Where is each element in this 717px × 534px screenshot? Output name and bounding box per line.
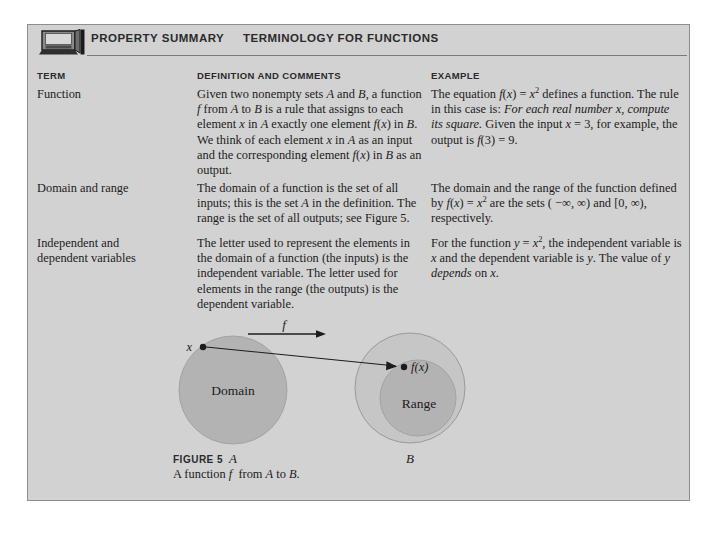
cell-term: Independent anddependent variables — [37, 236, 192, 266]
computer-monitor-icon — [37, 29, 85, 57]
domain-point-dot — [200, 344, 206, 350]
figure-5: f x f(x) Domain Range A B — [28, 320, 689, 500]
domain-point-label: x — [185, 340, 192, 354]
cell-term: Domain and range — [37, 181, 192, 196]
domain-set-label: Domain — [211, 383, 255, 398]
f-arrow-head — [316, 330, 326, 338]
column-header-definition: DEFINITION AND COMMENTS — [197, 70, 341, 81]
property-summary-panel: PROPERTY SUMMARY TERMINOLOGY FOR FUNCTIO… — [27, 24, 690, 501]
header-property-summary-label: PROPERTY SUMMARY — [91, 32, 224, 44]
cell-definition: Given two nonempty sets A and B, a funct… — [197, 87, 425, 178]
cell-example: The domain and the range of the function… — [431, 181, 683, 227]
function-mapping-diagram: f x f(x) Domain Range A B — [138, 320, 538, 465]
cell-definition: The letter used to represent the element… — [197, 236, 425, 312]
textbook-page: PROPERTY SUMMARY TERMINOLOGY FOR FUNCTIO… — [0, 0, 717, 534]
f-arrow-label: f — [282, 320, 288, 332]
figure-number-label: FIGURE 5 — [173, 454, 493, 465]
range-set-label: Range — [402, 396, 437, 411]
range-point-label: f(x) — [411, 360, 428, 374]
range-point-dot — [401, 364, 407, 370]
panel-header: PROPERTY SUMMARY TERMINOLOGY FOR FUNCTIO… — [28, 25, 689, 57]
column-header-example: EXAMPLE — [431, 70, 480, 81]
header-terminology-label: TERMINOLOGY FOR FUNCTIONS — [243, 32, 439, 44]
cell-example: The equation f(x) = x2 defines a functio… — [431, 87, 683, 148]
figure-caption: FIGURE 5 A function f from A to B. — [173, 454, 493, 482]
column-header-term: TERM — [37, 70, 66, 81]
header-divider-rule — [87, 55, 687, 56]
cell-definition: The domain of a function is the set of a… — [197, 181, 425, 227]
cell-term: Function — [37, 87, 192, 102]
cell-example: For the function y = x2, the independent… — [431, 236, 683, 282]
figure-caption-text: A function f from A to B. — [173, 467, 493, 482]
